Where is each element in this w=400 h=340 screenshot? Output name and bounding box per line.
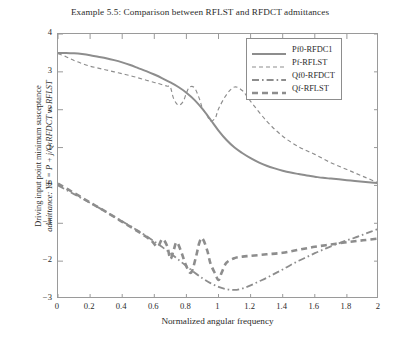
x-tick-label: 0.8 [171,301,199,311]
chart-title: Example 5.5: Comparison between RFLST an… [0,7,400,17]
y-tick-label: −3 [32,292,52,302]
y-tick-label: 4 [32,27,52,37]
legend-label: Pf0-RFDC1 [292,45,333,54]
chart-figure: Example 5.5: Comparison between RFLST an… [0,0,400,340]
legend-label: Pf-RFLST [292,58,327,67]
x-tick-label: 0.6 [139,301,167,311]
x-tick-label: 1.4 [268,301,296,311]
series-line-qf-rflst [58,184,378,281]
y-tick-label: 2 [32,103,52,113]
legend-swatch-icon [252,45,286,55]
series-line-qf0-rfdct [58,185,378,290]
y-tick-label: −2 [32,254,52,264]
y-tick-label: 3 [32,65,52,75]
x-tick-label: 0.4 [107,301,135,311]
y-tick-label: 1 [32,141,52,151]
x-tick-label: 1 [204,301,232,311]
x-tick-label: 0.2 [75,301,103,311]
legend-item[interactable]: Pf-RFLST [252,56,335,69]
legend-swatch-icon [252,58,286,68]
legend-item[interactable]: Qf0-RFDCT [252,69,335,82]
legend-label: Qf-RFLST [292,84,329,93]
legend-item[interactable]: Pf0-RFDC1 [252,43,335,56]
y-tick-label: 0 [32,178,52,188]
x-tick-label: 1.2 [236,301,264,311]
x-tick-label: 2 [364,301,392,311]
chart-legend: Pf0-RFDC1Pf-RFLSTQf0-RFDCTQf-RFLST [246,38,342,100]
x-tick-label: 0 [43,301,71,311]
x-tick-label: 1.6 [300,301,328,311]
x-tick-label: 1.8 [332,301,360,311]
legend-item[interactable]: Qf-RFLST [252,82,335,95]
legend-label: Qf0-RFDCT [292,71,335,80]
legend-swatch-icon [252,84,286,94]
y-tick-label: −1 [32,216,52,226]
legend-swatch-icon [252,71,286,81]
x-axis-label: Normalized angular frequency [57,316,378,326]
